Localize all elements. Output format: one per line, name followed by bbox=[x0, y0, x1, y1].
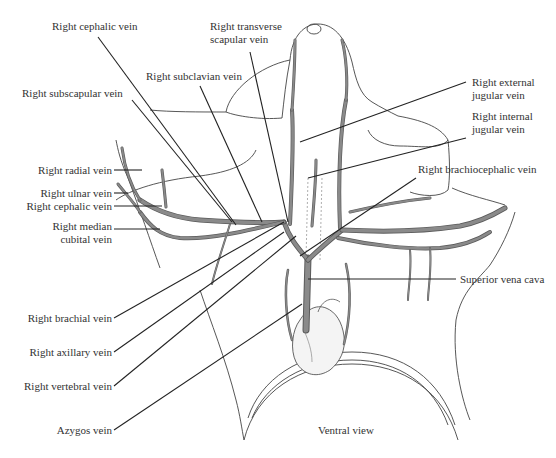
label-line-1: Right median bbox=[52, 220, 112, 233]
label-right-cephalic-vein-arm: Right cephalic vein bbox=[26, 200, 112, 213]
label-right-external-jugular-vein: Right external jugular vein bbox=[472, 76, 535, 102]
label-azygos-vein: Azygos vein bbox=[57, 424, 112, 437]
label-line-1: Right internal bbox=[472, 110, 533, 123]
leader-lines bbox=[98, 37, 466, 430]
label-right-cephalic-vein-top: Right cephalic vein bbox=[52, 20, 138, 33]
label-line-1: Right external bbox=[472, 76, 535, 89]
label-line-2: jugular vein bbox=[472, 89, 535, 102]
label-right-axillary-vein: Right axillary vein bbox=[30, 346, 112, 359]
label-line-2: jugular vein bbox=[472, 123, 533, 136]
label-right-brachial-vein: Right brachial vein bbox=[28, 312, 112, 325]
label-right-vertebral-vein: Right vertebral vein bbox=[24, 380, 112, 393]
label-line-2: scapular vein bbox=[210, 33, 282, 46]
label-right-median-cubital-vein: Right median cubital vein bbox=[52, 220, 112, 246]
label-line-2: cubital vein bbox=[52, 233, 112, 246]
label-right-subclavian-vein: Right subclavian vein bbox=[146, 70, 242, 83]
label-line-1: Right transverse bbox=[210, 20, 282, 33]
label-right-brachiocephalic-vein: Right brachiocephalic vein bbox=[418, 163, 537, 176]
label-right-subscapular-vein: Right subscapular vein bbox=[22, 87, 123, 100]
vein-network bbox=[118, 40, 505, 344]
label-right-internal-jugular-vein: Right internal jugular vein bbox=[472, 110, 533, 136]
heart-illustration bbox=[293, 299, 345, 374]
vein-anatomy-figure: Right cephalic vein Right subscapular ve… bbox=[0, 0, 556, 458]
label-right-radial-vein: Right radial vein bbox=[38, 164, 112, 177]
label-right-transverse-scapular-vein: Right transverse scapular vein bbox=[210, 20, 282, 46]
label-right-ulnar-vein: Right ulnar vein bbox=[41, 187, 113, 200]
view-label: Ventral view bbox=[318, 424, 374, 437]
label-superior-vena-cava: Superior vena cava bbox=[460, 273, 544, 286]
